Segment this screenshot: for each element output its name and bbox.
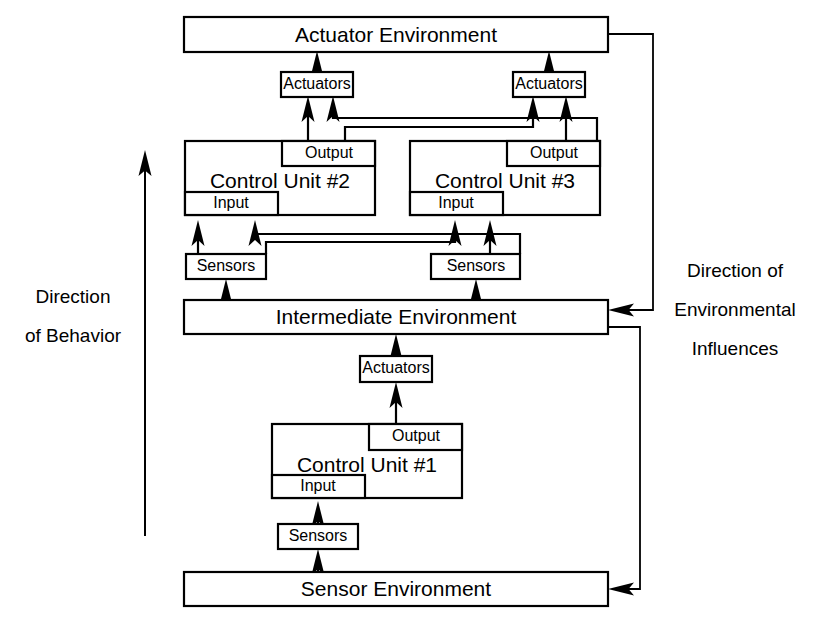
environmental-influences-line3: Influences: [692, 338, 779, 359]
actuators-3: Actuators: [513, 72, 585, 97]
actuator-environment-label: Actuator Environment: [295, 23, 497, 46]
intermediate-environment: Intermediate Environment: [184, 300, 608, 334]
conn-cu2-output-to-actuators3-cross: [345, 108, 533, 141]
conn-cu3-output-to-actuators2-cross: [333, 108, 597, 141]
sensors-2: Sensors: [186, 254, 266, 279]
direction-of-behavior-group: Direction of Behavior: [25, 150, 152, 536]
actuators-2-label: Actuators: [283, 75, 351, 92]
feedback-intermediate-to-sensor: [608, 327, 640, 596]
control-unit-2-input-label: Input: [213, 194, 249, 211]
actuator-environment: Actuator Environment: [184, 17, 608, 52]
control-unit-2-label: Control Unit #2: [210, 169, 350, 192]
actuators-2: Actuators: [281, 72, 353, 97]
environmental-influences-line2: Environmental: [674, 299, 795, 320]
control-unit-1-label: Control Unit #1: [297, 453, 437, 476]
feedback-line-actuator-intermediate: [608, 34, 653, 310]
control-unit-1-input-label: Input: [300, 477, 336, 494]
sensors-3: Sensors: [431, 254, 520, 279]
intermediate-environment-label: Intermediate Environment: [276, 305, 517, 328]
environmental-influences-line1: Direction of: [687, 260, 784, 281]
control-unit-3-label: Control Unit #3: [435, 169, 575, 192]
direction-of-behavior-line1: Direction: [36, 286, 111, 307]
output-to-actuators-connections-upper: [302, 96, 598, 141]
sensors-1-label: Sensors: [289, 527, 348, 544]
sensor-environment: Sensor Environment: [184, 572, 608, 606]
sensors-2-label: Sensors: [197, 257, 256, 274]
system-diagram: Direction of Behavior Direction of Envir…: [0, 0, 835, 628]
sensors-to-input-connections-upper: [192, 220, 521, 254]
control-unit-1: Output Control Unit #1 Input: [272, 424, 462, 498]
control-unit-1-output-label: Output: [392, 427, 441, 444]
sensors-3-label: Sensors: [447, 257, 506, 274]
control-unit-3-output-label: Output: [530, 144, 579, 161]
direction-of-environmental-influences-group: Direction of Environmental Influences: [674, 260, 795, 359]
control-unit-3-input-label: Input: [438, 194, 474, 211]
feedback-line-intermediate-sensor: [608, 327, 640, 589]
direction-of-behavior-line2: of Behavior: [25, 325, 122, 346]
sensors-1: Sensors: [278, 524, 358, 549]
conn-sensors2-to-cu3-input-cross: [266, 232, 455, 254]
actuators-1-label: Actuators: [362, 359, 430, 376]
control-unit-3: Output Control Unit #3 Input: [410, 141, 600, 215]
cu1-output-to-actuators1: [390, 382, 403, 424]
feedback-actuator-to-intermediate: [608, 34, 653, 317]
actuators-1: Actuators: [360, 356, 432, 382]
sensor-environment-label: Sensor Environment: [301, 577, 491, 600]
control-unit-2-output-label: Output: [305, 144, 354, 161]
actuators-3-label: Actuators: [515, 75, 583, 92]
control-unit-2: Output Control Unit #2 Input: [185, 141, 375, 215]
